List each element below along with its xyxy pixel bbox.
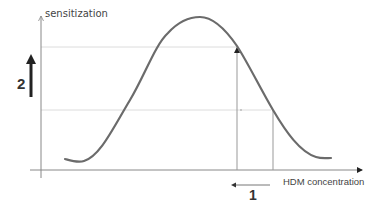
diagram-canvas: sensitization HDM concentration 2 1 bbox=[0, 0, 381, 210]
arrow-left-icon bbox=[231, 183, 236, 188]
annotation-label-1: 1 bbox=[249, 187, 257, 203]
x-axis-label: HDM concentration bbox=[283, 176, 364, 187]
lower-guide-dot bbox=[240, 109, 242, 111]
sensitization-curve bbox=[65, 17, 331, 162]
arrow-up-icon bbox=[26, 54, 36, 64]
annotation-label-2: 2 bbox=[17, 75, 25, 92]
y-axis-label: sensitization bbox=[45, 8, 108, 19]
